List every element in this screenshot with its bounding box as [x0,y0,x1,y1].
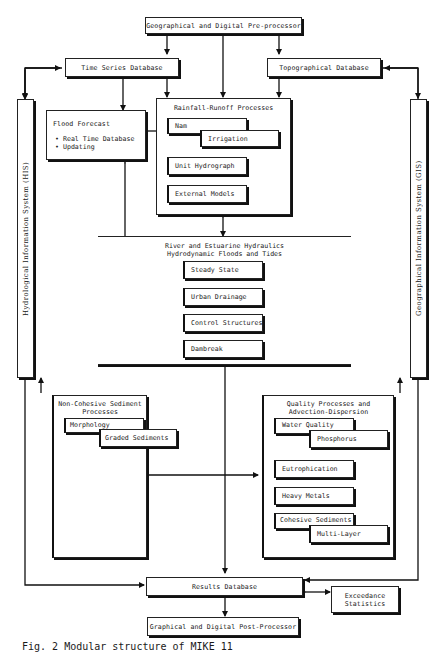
phosphorus-label: Phosphorus [317,435,357,443]
unit-hydrograph-module: Unit Hydrograph [167,157,247,175]
flood-forecast-item: Updating [55,143,134,151]
river-hydraulics-box: River and Estuarine Hydraulics Hydrodyna… [98,236,351,365]
multi-layer-label: Multi-Layer [317,530,361,538]
figure-caption: Fig. 2 Modular structure of MIKE 11 [22,641,233,652]
results-database-label: Results Database [192,583,257,591]
irrigation-label: Irrigation [208,135,248,143]
external-models-label: External Models [175,190,235,198]
topographical-database-label: Topographical Database [279,64,369,72]
quality-title-1: Quality Processes and [264,400,393,408]
his-label: Hydrological Information System (HIS) [18,100,33,377]
quality-processes-box: Quality Processes and Advection-Dispersi… [262,395,394,558]
flood-forecast-list: Real Time Database Updating [55,135,134,151]
river-hydraulics-title-2: Hydrodynamic Floods and Tides [98,250,351,258]
his-box: Hydrological Information System (HIS) [17,99,34,378]
flood-forecast-item: Real Time Database [55,135,134,143]
rainfall-runoff-title: Rainfall-Runoff Processes [157,104,290,112]
external-models-module: External Models [167,185,247,203]
nam-label: Nam [175,122,187,130]
steady-state-module: Steady State [183,261,263,279]
river-hydraulics-title-1: River and Estuarine Hydraulics [98,242,351,250]
eutrophication-module: Eutrophication [274,460,354,478]
multi-layer-module: Multi-Layer [309,525,388,543]
time-series-database-box: Time Series Database [65,58,179,77]
flood-forecast-box: Flood Forecast Real Time Database Updati… [46,110,146,160]
pre-processor-label: Geographical and Digital Pre-processor [146,22,301,30]
control-structures-module: Control Structures [183,314,263,332]
post-processor-label: Graphical and Digital Post-Processor [150,623,297,631]
non-cohesive-sediment-box: Non-Cohesive Sediment Processes Morpholo… [52,395,147,558]
results-database-box: Results Database [146,577,303,596]
pre-processor-box: Geographical and Digital Pre-processor [145,17,302,34]
cohesive-sediments-label: Cohesive Sediments [280,516,351,524]
steady-state-label: Steady State [191,266,239,274]
time-series-database-label: Time Series Database [81,64,162,72]
graded-sediments-module: Graded Sediments [99,429,177,447]
gis-box: Geographical Information System (GIS) [410,99,427,378]
water-quality-label: Water Quality [282,421,334,429]
exceedance-label-2: Statistics [345,600,386,608]
dambreak-module: Dambreak [183,340,263,358]
control-structures-label: Control Structures [191,319,262,327]
exceedance-statistics-box: Exceedance Statistics [331,586,399,613]
non-cohesive-title-1: Non-Cohesive Sediment [54,400,146,408]
eutrophication-label: Eutrophication [282,465,338,473]
phosphorus-module: Phosphorus [309,430,388,448]
flood-forecast-title: Flood Forecast [53,120,110,128]
exceedance-label-1: Exceedance [345,592,386,600]
heavy-metals-label: Heavy Metals [282,492,330,500]
gis-label: Geographical Information System (GIS) [411,100,426,377]
irrigation-module: Irrigation [200,130,279,147]
unit-hydrograph-label: Unit Hydrograph [175,162,235,170]
rainfall-runoff-box: Rainfall-Runoff Processes Nam Irrigation… [156,98,291,215]
heavy-metals-module: Heavy Metals [274,487,354,505]
graded-sediments-label: Graded Sediments [105,434,169,442]
non-cohesive-title-2: Processes [54,408,146,416]
topographical-database-box: Topographical Database [267,58,381,77]
dambreak-label: Dambreak [191,345,223,353]
post-processor-box: Graphical and Digital Post-Processor [147,617,299,636]
urban-drainage-module: Urban Drainage [183,288,263,306]
urban-drainage-label: Urban Drainage [191,293,247,301]
quality-title-2: Advection-Dispersion [264,408,393,416]
morphology-label: Morphology [70,421,110,429]
